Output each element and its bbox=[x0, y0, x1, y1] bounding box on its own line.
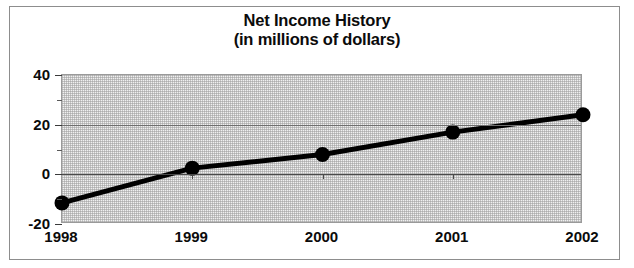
x-axis-label-1998: 1998 bbox=[44, 228, 77, 245]
y-minor-tick-30 bbox=[57, 100, 62, 101]
gridline-0 bbox=[62, 174, 581, 175]
x-tick-2001 bbox=[453, 174, 454, 179]
y-tick-40 bbox=[55, 75, 62, 76]
y-axis-label-20: 20 bbox=[4, 115, 50, 132]
y-tick-0 bbox=[55, 174, 62, 175]
x-axis-label-2000: 2000 bbox=[305, 228, 338, 245]
chart-subtitle: (in millions of dollars) bbox=[0, 30, 634, 49]
data-point-2002 bbox=[576, 107, 591, 122]
y-minor-tick--10 bbox=[57, 199, 62, 200]
chart-title-block: Net Income History (in millions of dolla… bbox=[0, 11, 634, 50]
chart-title: Net Income History bbox=[0, 11, 634, 30]
y-minor-tick-10 bbox=[57, 150, 62, 151]
net-income-history-chart-figure: Net Income History (in millions of dolla… bbox=[0, 0, 634, 268]
data-point-2000 bbox=[315, 147, 330, 162]
series-line-chart bbox=[62, 75, 583, 224]
data-point-2001 bbox=[445, 125, 460, 140]
gridline-20 bbox=[62, 125, 581, 126]
plot-area bbox=[61, 74, 582, 223]
y-axis-label--20: -20 bbox=[4, 215, 50, 232]
x-axis-label-1999: 1999 bbox=[175, 228, 208, 245]
y-tick--20 bbox=[55, 224, 62, 225]
y-axis-label-0: 0 bbox=[4, 165, 50, 182]
x-tick-2000 bbox=[323, 174, 324, 179]
x-tick-1999 bbox=[192, 174, 193, 179]
x-axis-label-2002: 2002 bbox=[565, 228, 598, 245]
data-point-1998 bbox=[55, 195, 70, 210]
y-axis-label-40: 40 bbox=[4, 66, 50, 83]
y-tick-20 bbox=[55, 125, 62, 126]
x-axis-label-2001: 2001 bbox=[435, 228, 468, 245]
